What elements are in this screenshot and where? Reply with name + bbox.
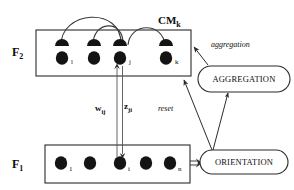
f2-node-label-3: j (129, 58, 131, 66)
f2-node-label-1: l (71, 58, 73, 66)
weight-z-label: zji (124, 101, 132, 113)
f1-node-2 (84, 156, 96, 170)
f2-node-label-4: k (175, 58, 179, 66)
aggregation-module-label[interactable]: AGGREGATION (198, 74, 290, 84)
f1-node-4 (140, 156, 152, 170)
f1-node-3 (114, 156, 126, 170)
f2-node-cap-3 (113, 39, 127, 46)
aggregation-signal-label: aggregation (211, 40, 250, 49)
f1-node-label-3: i (128, 165, 130, 173)
reset-signal-label: reset (158, 104, 173, 113)
f2-node-cap-2 (87, 39, 101, 46)
diagram-canvas: F2 F1 CMk l j k 1 i n wij zji aggregatio… (0, 0, 294, 190)
f2-node-2 (88, 51, 100, 65)
f1-layer-label: F1 (12, 157, 23, 173)
f2-node-1 (56, 51, 68, 65)
f1-node-label-5: n (178, 165, 182, 173)
f2-node-cap-1 (55, 39, 69, 46)
f2-node-3 (114, 51, 126, 65)
f1-node-label-1: 1 (69, 165, 73, 173)
f2-node-cap-4 (159, 39, 173, 46)
f2-layer-label: F2 (12, 45, 23, 61)
f2-node-4 (160, 51, 172, 65)
cm-label: CMk (158, 14, 181, 29)
weight-w-label: wij (95, 103, 105, 115)
orientation-to-aggregation-arrow (213, 93, 228, 150)
f1-node-1 (55, 156, 67, 170)
aggregation-to-f2-arrow (194, 47, 208, 65)
f1-node-5 (164, 156, 176, 170)
orientation-module-label[interactable]: ORIENTATION (200, 157, 288, 167)
